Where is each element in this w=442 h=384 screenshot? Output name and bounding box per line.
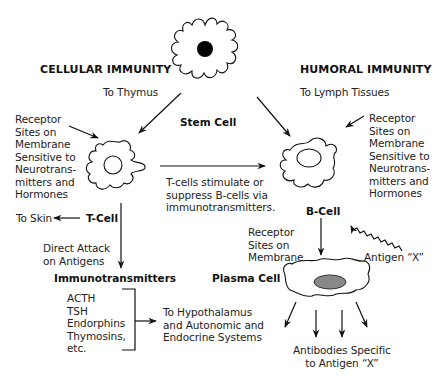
humoral-immunity-heading: HUMORAL IMMUNITY (300, 63, 432, 76)
b-cell-label: B-Cell (306, 205, 340, 217)
b-cell-shape (280, 138, 336, 187)
stem-cell-shape (171, 18, 237, 78)
antigen-label: Antigen “X” (364, 251, 424, 264)
plasma-cell-label: Plasma Cell (212, 272, 280, 284)
t-cell-label: T-Cell (86, 212, 118, 224)
plasma-cell-shape (284, 258, 370, 296)
cellular-immunity-heading: CELLULAR IMMUNITY (40, 63, 171, 76)
to-lymph-label: To Lymph Tissues (300, 86, 389, 99)
stem-nucleus (197, 41, 213, 57)
receptor-label-right: Receptor Sites on Membrane Sensitive to … (369, 112, 430, 200)
immunotransmitters-label: Immunotransmitters (54, 272, 176, 284)
to-hypothalamus-label: To Hypothalamus and Autonomic and Endocr… (163, 306, 264, 344)
to-thymus-label: To Thymus (103, 86, 158, 99)
to-skin-label: To Skin (16, 212, 52, 225)
t-cell-shape (86, 141, 145, 189)
t-stimulate-label: T-cells stimulate or suppress B-cells vi… (166, 176, 275, 214)
transmitter-list: ACTH TSH Endorphins Thymosins, etc. (67, 292, 126, 355)
stem-cell-label: Stem Cell (180, 116, 236, 128)
receptor-label-left: Receptor Sites on Membrane Sensitive to … (15, 113, 76, 201)
direct-attack-label: Direct Attack on Antigens (43, 242, 110, 267)
receptor-b-label: Receptor Sites on Membrane (248, 226, 303, 264)
antibodies-label: Antibodies Specific to Antigen “X” (293, 344, 391, 369)
